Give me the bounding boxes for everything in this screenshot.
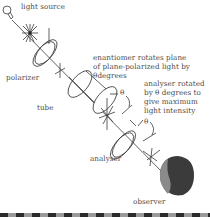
polarizer-disc bbox=[29, 28, 61, 70]
observer-label: observer bbox=[133, 198, 165, 207]
analyser-label: analyser bbox=[90, 155, 121, 164]
light-bulb-icon bbox=[3, 6, 13, 19]
observer-head-icon bbox=[160, 156, 194, 195]
light-source-label: light source bbox=[21, 3, 65, 12]
polarizer-label: polarizer bbox=[6, 74, 39, 83]
unpolarized-light-star-icon bbox=[22, 24, 38, 42]
tube-label: tube bbox=[37, 104, 54, 113]
theta-label-2: θ bbox=[144, 118, 148, 127]
bottom-dashed-border bbox=[0, 213, 210, 217]
analyser-note-line4: light intensity bbox=[144, 107, 195, 116]
theta-label-1: θ bbox=[120, 89, 124, 98]
observed-light-cross-icon bbox=[143, 148, 160, 166]
enantiomer-note-line3: θdegrees bbox=[93, 72, 127, 81]
